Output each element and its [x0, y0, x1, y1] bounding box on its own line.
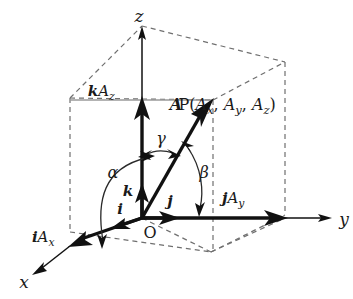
- vector-diagram-figure: z y x O P(Ax, Ay, Az) A kAz jAy iAx: [0, 0, 353, 299]
- unit-vector-label-j: j: [164, 192, 173, 210]
- component-label-iax: iAx: [0, 228, 91, 250]
- point-coord-1-base: A: [193, 95, 207, 114]
- component-jay-sub: y: [237, 197, 245, 210]
- point-coord-3-base: A: [250, 95, 264, 114]
- unit-vector-label-i: i: [117, 200, 123, 218]
- unit-vector-label-k: k: [123, 182, 133, 200]
- box-edge-bottom-to-y: [211, 218, 285, 252]
- component-iax-magnitude: A: [36, 228, 49, 246]
- vector-a-label: A: [168, 95, 182, 114]
- component-label-kaz: kAz: [41, 82, 152, 104]
- unit-vector-i-shaft: [124, 218, 142, 224]
- angle-label-alpha: α: [108, 163, 119, 182]
- point-coord-1-sep: ,: [213, 95, 223, 114]
- point-coord-2-sep: ,: [242, 95, 252, 114]
- component-kaz-magnitude: A: [96, 82, 109, 100]
- svg-text:kAz: kAz: [41, 82, 152, 104]
- point-p-label: P(Ax, Ay, Az): [133, 95, 312, 117]
- angle-label-beta: β: [198, 163, 208, 182]
- axis-label-x: x: [19, 272, 29, 292]
- component-kaz-unit: k: [88, 82, 98, 100]
- svg-text:P(Ax, Ay, Az): P(Ax, Ay, Az): [133, 95, 312, 117]
- origin-label: O: [143, 223, 156, 242]
- point-coord-2-base: A: [222, 95, 236, 114]
- angle-label-gamma: γ: [156, 129, 166, 148]
- component-kaz-sub: z: [108, 90, 115, 103]
- box-edge-ztop-to-backright: [142, 26, 285, 62]
- svg-text:jAy: jAy: [175, 189, 281, 211]
- svg-text:iAx: iAx: [0, 228, 91, 250]
- component-jay-magnitude: A: [225, 189, 238, 207]
- x-axis-arrowhead: [32, 262, 47, 275]
- axis-label-y: y: [338, 209, 349, 229]
- point-label-close: ): [270, 95, 276, 114]
- diagram-canvas: z y x O P(Ax, Ay, Az) A kAz jAy iAx: [0, 0, 353, 299]
- component-label-jay: jAy: [175, 189, 281, 211]
- component-iax-sub: x: [48, 236, 54, 249]
- axis-label-z: z: [134, 6, 145, 26]
